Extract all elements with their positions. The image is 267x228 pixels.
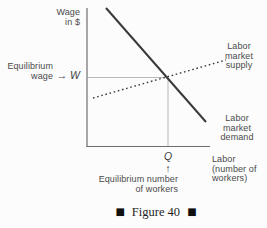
equilibrium-wage-label-line2: wage xyxy=(2,72,53,82)
y-axis-title: Wage in $ xyxy=(40,8,80,27)
supply-curve-label: Labor market supply xyxy=(214,42,264,71)
equilibrium-wage-symbol: W xyxy=(70,70,80,81)
y-axis-title-line2: in $ xyxy=(40,18,80,28)
equilibrium-quantity-label-line2: of workers xyxy=(95,185,178,195)
equilibrium-quantity-label: Equilibrium number of workers xyxy=(95,175,178,194)
caption-square-left-icon: ■ xyxy=(115,206,124,218)
up-arrow-icon: ↑ xyxy=(161,163,175,174)
equilibrium-wage-label: Equilibrium wage xyxy=(2,62,53,81)
demand-curve xyxy=(106,8,206,122)
demand-curve-label: Labor market demand xyxy=(212,114,262,143)
demand-label-line3: demand xyxy=(212,133,262,143)
equilibrium-quantity-symbol: Q xyxy=(161,151,175,162)
caption-square-right-icon: ■ xyxy=(187,206,196,218)
right-arrow-icon: → xyxy=(55,70,69,81)
caption-text: Figure 40 xyxy=(132,205,180,219)
figure-40-diagram: Wage in $ Equilibrium wage → W Labor mar… xyxy=(0,0,267,228)
x-axis-title: Labor (number of workers) xyxy=(212,155,267,184)
supply-curve xyxy=(93,60,226,98)
supply-label-line3: supply xyxy=(214,61,264,71)
x-axis-title-line3: workers) xyxy=(212,174,267,184)
figure-caption: ■ Figure 40 ■ xyxy=(106,205,206,219)
